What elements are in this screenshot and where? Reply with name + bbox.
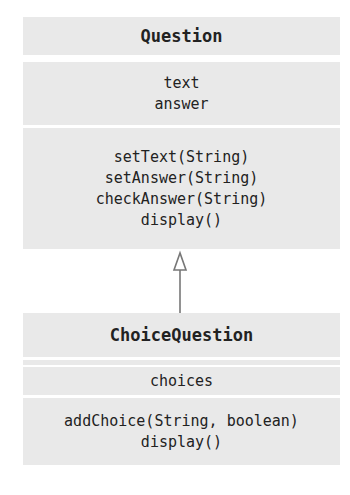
class-choicequestion-attributes: choices <box>23 367 340 395</box>
attribute: choices <box>23 371 340 392</box>
class-choicequestion: ChoiceQuestion choices addChoice(String,… <box>23 313 340 465</box>
class-name: ChoiceQuestion <box>23 325 340 345</box>
class-choicequestion-methods: addChoice(String, boolean) display() <box>23 398 340 465</box>
method: display() <box>23 432 340 453</box>
divider-band <box>23 360 340 365</box>
class-choicequestion-header: ChoiceQuestion <box>23 313 340 357</box>
method: addChoice(String, boolean) <box>23 411 340 432</box>
